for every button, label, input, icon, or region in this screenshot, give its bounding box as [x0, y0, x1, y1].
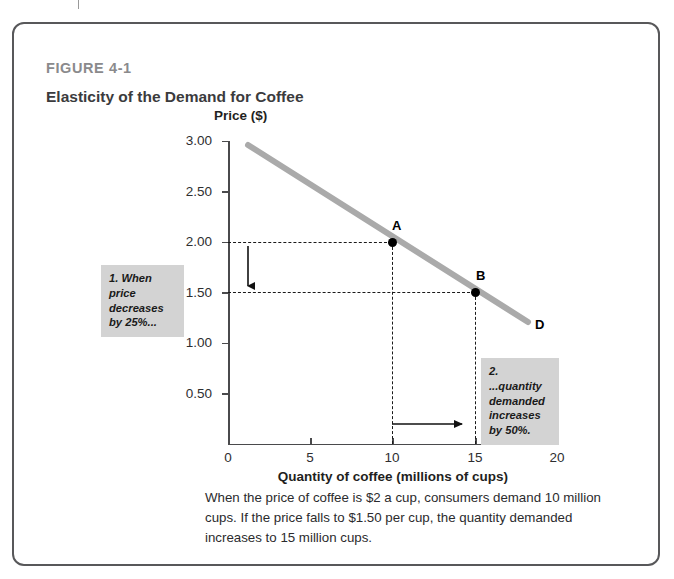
figure-label: FIGURE 4-1 [46, 60, 132, 76]
crop-mark [78, 0, 79, 9]
figure-page: FIGURE 4-1 Elasticity of the Demand for … [0, 0, 674, 579]
figure-caption: When the price of coffee is $2 a cup, co… [205, 488, 625, 548]
figure-title: Elasticity of the Demand for Coffee [46, 88, 304, 106]
figure-panel: FIGURE 4-1 Elasticity of the Demand for … [12, 22, 660, 566]
